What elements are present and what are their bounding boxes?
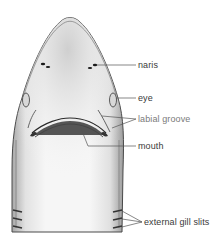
eye-right bbox=[110, 93, 117, 107]
label-labial-groove: labial groove bbox=[138, 114, 190, 124]
label-naris: naris bbox=[138, 60, 158, 70]
label-mouth: mouth bbox=[138, 141, 164, 151]
eye-left bbox=[23, 93, 30, 107]
label-external-gill-slits: external gill slits bbox=[144, 217, 209, 227]
gill-slits-leader bbox=[122, 211, 142, 227]
label-eye: eye bbox=[138, 93, 153, 103]
